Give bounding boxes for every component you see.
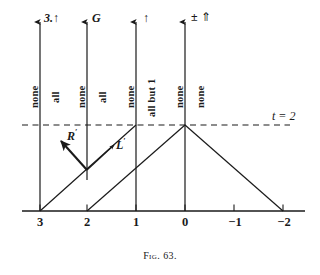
vertical-top-label-x1: ↑ (143, 12, 149, 24)
region-label-x0-left: none (174, 86, 185, 108)
x-tick-label-2: 2 (84, 216, 90, 229)
region-label-x0-right: none (195, 86, 206, 108)
region-label-x2-right: all (97, 91, 108, 103)
region-label-x2-left: none (76, 86, 87, 108)
region-label-x1-right: all but 1 (146, 78, 157, 117)
vector-label-R: R′ (67, 129, 77, 142)
figure-caption: Fig. 63. (0, 250, 320, 261)
vertical-top-label-x0: ± ⇑ (191, 11, 211, 23)
caption-prefix: Fig. (143, 250, 160, 261)
vertical-top-label-x3: 3.↑ (44, 12, 59, 24)
x-axis (22, 205, 305, 212)
axis-ticks (40, 205, 283, 212)
x-tick-label-3: 3 (37, 216, 43, 229)
figure-drawing (0, 0, 320, 275)
t-equals-2-label: t = 2 (272, 110, 295, 122)
region-label-x3-right: all (50, 91, 61, 103)
x-tick-label-neg2: −2 (277, 216, 290, 229)
up-arrow-icon: ↑ (53, 11, 59, 25)
double-up-arrow-icon: ⇑ (201, 10, 211, 24)
x-tick-label-1: 1 (133, 216, 139, 229)
caption-number: 63. (163, 250, 177, 261)
vector-arrow-R (61, 141, 87, 170)
vertical-top-label-x2: G (92, 12, 101, 24)
figure-63: 3.↑ G ↑ ± ⇑ none all none all none all b… (0, 0, 320, 275)
up-arrow-icon: ↑ (143, 11, 149, 25)
vector-arrow-L (87, 145, 114, 170)
plus-minus-icon: ± (191, 10, 198, 24)
x-tick-label-neg1: −1 (228, 216, 241, 229)
vector-label-L: L′ (116, 138, 126, 151)
region-label-x3-left: none (29, 86, 40, 108)
region-label-x1-left: none (125, 86, 136, 108)
x-tick-label-0: 0 (182, 216, 188, 229)
